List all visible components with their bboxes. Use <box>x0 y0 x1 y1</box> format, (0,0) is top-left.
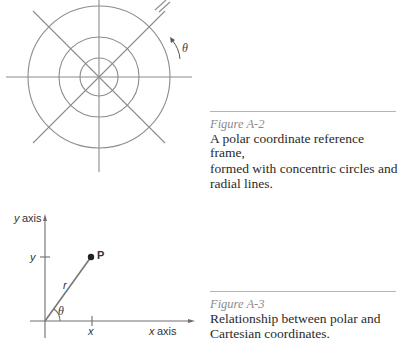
figure-a3-caption: Figure A-3 Relationship between polar an… <box>210 291 400 342</box>
point-p-marker <box>88 254 94 260</box>
x-axis-label-var: x <box>148 325 155 337</box>
figure-a2-caption-line-2: formed with concentric circles and <box>210 162 400 176</box>
figure-a3-caption-line-1: Relationship between polar and <box>210 312 400 326</box>
x-tick-label: x <box>87 325 94 337</box>
y-axis-arrow-icon <box>43 214 47 221</box>
caption-rule <box>210 291 396 292</box>
figure-a2-caption: Figure A-2 A polar coordinate reference … <box>210 111 400 191</box>
polar-theta-label: θ <box>182 41 188 55</box>
y-axis-label-var: y <box>13 212 21 224</box>
arrow-tick-2 <box>159 2 170 12</box>
figure-a3-label: Figure A-3 <box>210 297 400 311</box>
arrow-tick-1 <box>155 0 166 10</box>
point-p-label: P <box>97 249 104 261</box>
figure-a2-caption-line-3: radial lines. <box>210 177 400 191</box>
cartesian-theta-label: θ <box>58 304 64 318</box>
y-tick-label: y <box>29 251 37 263</box>
cartesian-diagram: y axis y P r θ x x axis <box>13 212 195 338</box>
x-axis-label: axis <box>157 325 177 337</box>
figure-a2-label: Figure A-2 <box>210 117 400 131</box>
polar-grid <box>6 0 192 172</box>
figure-a2-caption-line-1: A polar coordinate reference frame, <box>210 132 400 161</box>
y-axis-label: axis <box>22 212 42 224</box>
caption-rule <box>210 111 396 112</box>
radius-line <box>45 257 91 321</box>
theta-rotation-arrow-icon <box>170 37 180 59</box>
figure-a3-caption-line-2: Cartesian coordinates. <box>210 327 400 341</box>
x-axis-arrow-icon <box>188 319 195 323</box>
